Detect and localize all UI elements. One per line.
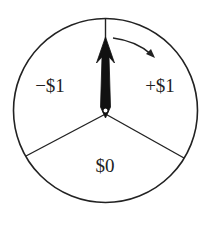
spinner-diagram: −$1 +$1 $0 — [0, 0, 212, 234]
divider-left — [26, 114, 106, 156]
hub-pivot-icon — [103, 108, 108, 113]
divider-right — [106, 114, 185, 158]
section-label-bottom: $0 — [96, 155, 115, 176]
clockwise-rotation-arrow-icon — [113, 38, 155, 58]
section-label-left: −$1 — [35, 75, 65, 96]
pointer-arrow-icon — [97, 37, 115, 118]
section-label-right: +$1 — [145, 75, 175, 96]
